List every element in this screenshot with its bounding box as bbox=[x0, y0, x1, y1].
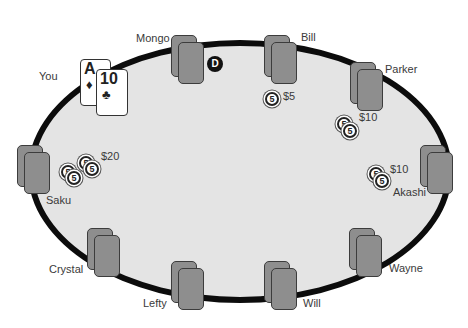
card-back-icon bbox=[94, 235, 120, 277]
dealer-button: D bbox=[207, 56, 223, 72]
seat-lefty[interactable] bbox=[171, 261, 211, 317]
player-name-you: You bbox=[39, 70, 58, 82]
card-back-icon bbox=[271, 268, 297, 310]
card-rank: 10 bbox=[100, 71, 118, 87]
diamond-suit-icon: ♦ bbox=[86, 78, 93, 91]
card-back-icon bbox=[24, 152, 50, 194]
seat-akashi[interactable] bbox=[420, 145, 460, 201]
card-back-icon bbox=[356, 235, 382, 277]
player-name-wayne: Wayne bbox=[389, 262, 423, 274]
player-name-lefty: Lefty bbox=[143, 297, 167, 309]
chip-icon: 5 bbox=[265, 92, 279, 106]
seat-wayne[interactable] bbox=[349, 228, 389, 284]
player-name-will: Will bbox=[303, 297, 321, 309]
chip-icon: 5 bbox=[67, 171, 81, 185]
bet-amount-akashi: $10 bbox=[390, 163, 408, 175]
hole-card-2[interactable]: 10 ♣ bbox=[96, 69, 128, 116]
seat-mongo[interactable] bbox=[171, 35, 211, 91]
player-name-mongo: Mongo bbox=[136, 32, 170, 44]
bet-amount-saku: $20 bbox=[101, 150, 119, 162]
chip-icon: 5 bbox=[375, 174, 389, 188]
card-back-icon bbox=[357, 69, 383, 111]
club-suit-icon: ♣ bbox=[102, 88, 111, 101]
seat-crystal[interactable] bbox=[87, 228, 127, 284]
card-back-icon bbox=[271, 42, 297, 84]
seat-saku[interactable] bbox=[17, 145, 57, 201]
card-rank: A bbox=[84, 61, 96, 77]
seat-will[interactable] bbox=[264, 261, 304, 317]
card-back-icon bbox=[427, 152, 453, 194]
chip-icon: 5 bbox=[85, 162, 99, 176]
bet-amount-bill: $5 bbox=[283, 90, 295, 102]
seat-parker[interactable] bbox=[350, 62, 390, 118]
player-name-crystal: Crystal bbox=[49, 263, 83, 275]
chip-icon: 5 bbox=[343, 124, 357, 138]
bet-amount-parker: $10 bbox=[359, 111, 377, 123]
card-back-icon bbox=[178, 268, 204, 310]
card-back-icon bbox=[178, 42, 204, 84]
seat-bill[interactable] bbox=[264, 35, 304, 91]
